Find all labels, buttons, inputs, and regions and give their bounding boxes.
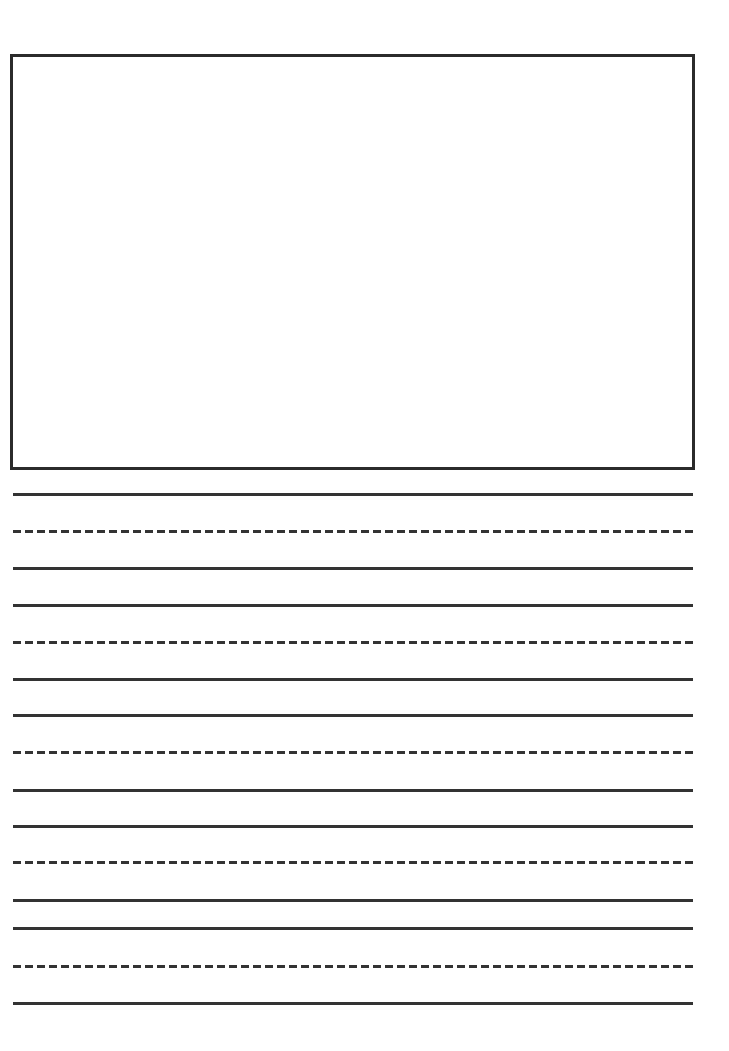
solid-writing-line xyxy=(13,714,693,717)
dashed-writing-line xyxy=(13,965,693,968)
solid-writing-line xyxy=(13,1002,693,1005)
solid-writing-line xyxy=(13,493,693,496)
solid-writing-line xyxy=(13,927,693,930)
solid-writing-line xyxy=(13,825,693,828)
solid-writing-line xyxy=(13,567,693,570)
drawing-box xyxy=(10,54,695,470)
solid-writing-line xyxy=(13,789,693,792)
dashed-writing-line xyxy=(13,641,693,644)
solid-writing-line xyxy=(13,899,693,902)
dashed-writing-line xyxy=(13,530,693,533)
solid-writing-line xyxy=(13,604,693,607)
dashed-writing-line xyxy=(13,861,693,864)
solid-writing-line xyxy=(13,678,693,681)
dashed-writing-line xyxy=(13,751,693,754)
